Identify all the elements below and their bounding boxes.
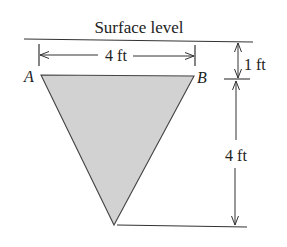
width-dimension-label: 4 ft [105,47,127,64]
diagram-svg: Surface level 4 ft A B 1 ft 4 ft [0,0,287,247]
triangular-plate-diagram: Surface level 4 ft A B 1 ft 4 ft [0,0,287,247]
height-dimension-label: 4 ft [225,147,247,164]
surface-line [24,39,253,42]
depth-dimension-label: 1 ft [244,56,266,73]
bottom-reference-line [117,225,247,227]
surface-level-label: Surface level [94,18,183,37]
point-b-label: B [197,69,207,86]
point-a-label: A [23,68,34,85]
triangular-plate [41,75,194,225]
